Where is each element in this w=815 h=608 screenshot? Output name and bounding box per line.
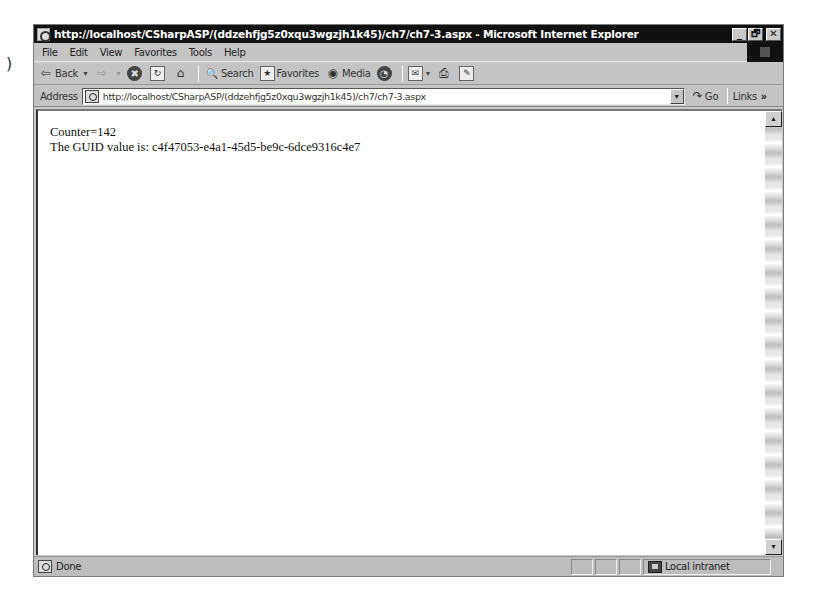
close-button[interactable]: ✕: [766, 28, 781, 41]
address-label: Address: [34, 91, 82, 102]
links-chevron-icon[interactable]: »: [761, 91, 767, 102]
mail-dropdown-icon[interactable]: ▼: [425, 70, 432, 77]
toolbar-separator: [198, 66, 199, 82]
back-arrow-icon: ⇦: [38, 66, 53, 81]
stray-parenthesis: ): [6, 54, 12, 73]
window-title: http://localhost/CSharpASP/(ddzehfjg5z0x…: [54, 28, 639, 40]
counter-text: Counter=142: [50, 125, 765, 140]
edit-button[interactable]: ✎: [459, 66, 476, 81]
windows-logo-throbber: [747, 43, 783, 62]
back-label: Back: [55, 68, 78, 79]
status-panes: Local intranet: [569, 559, 783, 575]
back-button[interactable]: ⇦ Back: [38, 66, 78, 81]
menu-bar: File Edit View Favorites Tools Help: [34, 43, 783, 62]
address-dropdown-button[interactable]: ▼: [670, 89, 684, 104]
page-icon: [85, 90, 99, 103]
scroll-down-button[interactable]: ▼: [765, 539, 782, 555]
media-button[interactable]: ◉ Media: [325, 66, 371, 81]
history-button[interactable]: ◔: [377, 66, 394, 81]
print-icon: ⎙: [436, 66, 451, 81]
links-button[interactable]: Links: [733, 91, 757, 102]
address-input[interactable]: http://localhost/CSharpASP/(ddzehfjg5z0x…: [82, 88, 685, 105]
page-content: Counter=142 The GUID value is: c4f47053-…: [36, 109, 765, 555]
title-bar[interactable]: http://localhost/CSharpASP/(ddzehfjg5z0x…: [34, 25, 783, 43]
menu-view[interactable]: View: [94, 47, 129, 58]
stop-button[interactable]: ✖: [127, 66, 144, 81]
stop-icon: ✖: [127, 66, 142, 81]
windows-logo-icon: [760, 47, 770, 57]
mail-icon: ✉: [408, 66, 423, 81]
menu-help[interactable]: Help: [218, 47, 252, 58]
scroll-up-button[interactable]: ▲: [765, 111, 782, 127]
zone-label: Local intranet: [665, 561, 730, 572]
vertical-scrollbar[interactable]: ▲ ▼: [765, 109, 782, 555]
search-icon: 🔍: [204, 66, 219, 81]
search-label: Search: [221, 68, 254, 79]
media-icon: ◉: [325, 66, 340, 81]
search-button[interactable]: 🔍 Search: [204, 66, 254, 81]
home-button[interactable]: ⌂: [173, 66, 190, 81]
menu-tools[interactable]: Tools: [183, 47, 218, 58]
status-pane: [619, 559, 641, 575]
print-button[interactable]: ⎙: [436, 66, 453, 81]
favorites-button[interactable]: ★ Favorites: [260, 66, 319, 81]
forward-arrow-icon: ⇨: [94, 66, 109, 81]
history-icon: ◔: [377, 66, 392, 81]
favorites-icon: ★: [260, 66, 275, 81]
address-url[interactable]: http://localhost/CSharpASP/(ddzehfjg5z0x…: [103, 91, 426, 102]
address-bar: Address http://localhost/CSharpASP/(ddze…: [34, 86, 783, 107]
mail-button[interactable]: ✉: [408, 66, 425, 81]
media-label: Media: [342, 68, 371, 79]
links-separator: [727, 88, 728, 104]
menu-edit[interactable]: Edit: [64, 47, 94, 58]
status-bar: Done Local intranet: [34, 556, 783, 576]
back-dropdown-icon[interactable]: ▼: [82, 70, 89, 77]
go-arrow-icon: ↷: [693, 89, 703, 103]
page-text: Counter=142 The GUID value is: c4f47053-…: [38, 111, 765, 155]
status-pane: [595, 559, 617, 575]
security-zone[interactable]: Local intranet: [643, 559, 771, 575]
ie-app-icon[interactable]: [37, 28, 50, 41]
forward-button[interactable]: ⇨: [94, 66, 111, 81]
guid-text: The GUID value is: c4f47053-e4a1-45d5-be…: [50, 140, 765, 155]
status-text: Done: [56, 561, 81, 572]
status-pane: [571, 559, 593, 575]
minimize-button[interactable]: _: [732, 28, 747, 41]
toolbar-separator: [402, 66, 403, 82]
standard-toolbar: ⇦ Back ▼ ⇨ ▼ ✖ ↻ ⌂ 🔍 Search ★ Favorites …: [34, 63, 783, 85]
menu-favorites[interactable]: Favorites: [128, 47, 182, 58]
home-icon: ⌂: [173, 66, 188, 81]
window-controls: _ 🗗 ✕: [732, 28, 781, 41]
forward-dropdown-icon[interactable]: ▼: [115, 70, 122, 77]
go-button[interactable]: ↷ Go: [693, 89, 719, 103]
refresh-icon: ↻: [150, 66, 165, 81]
menu-file[interactable]: File: [34, 47, 64, 58]
maximize-button[interactable]: 🗗: [748, 28, 763, 41]
go-label: Go: [705, 91, 719, 102]
browser-window: http://localhost/CSharpASP/(ddzehfjg5z0x…: [33, 24, 784, 577]
local-intranet-icon: [648, 561, 662, 573]
page-done-icon: [38, 560, 52, 573]
edit-icon: ✎: [459, 66, 474, 81]
refresh-button[interactable]: ↻: [150, 66, 167, 81]
favorites-label: Favorites: [277, 68, 319, 79]
